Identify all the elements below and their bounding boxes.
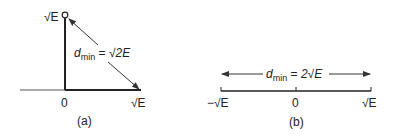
origin-label-a: 0 [61, 96, 68, 110]
signal-constellation-diagram: √E dmin = √2E 0 √E (a) dmin = 2√E −√E [0, 0, 397, 139]
distance-arrow-a-lower [108, 62, 139, 89]
distance-label-b: dmin = 2√E [266, 67, 323, 83]
distance-arrow-a-upper [69, 19, 98, 45]
caption-b: (b) [289, 115, 304, 129]
panel-a: √E dmin = √2E 0 √E (a) [20, 10, 146, 128]
signal-point-y [62, 12, 68, 18]
right-label-b: √E [362, 96, 377, 110]
y-point-label-a: √E [44, 10, 59, 24]
panel-b: dmin = 2√E −√E 0 √E (b) [207, 67, 377, 129]
x-point-label-a: √E [131, 96, 146, 110]
distance-label-a: dmin = √2E [74, 46, 131, 62]
caption-a: (a) [77, 114, 92, 128]
left-label-b: −√E [207, 96, 229, 110]
origin-label-b: 0 [292, 96, 299, 110]
